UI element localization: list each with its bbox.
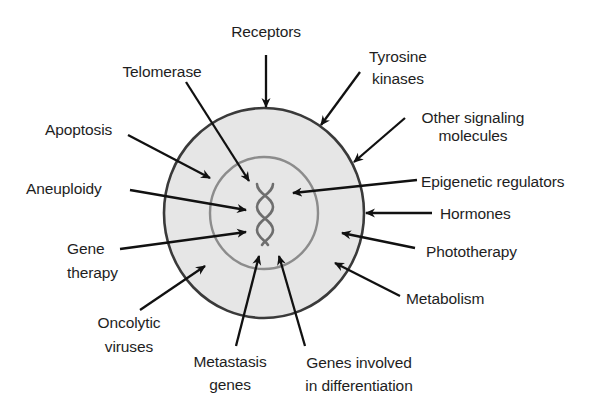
label-phototherapy: Phototherapy (426, 243, 517, 261)
label-oncolytic-line2: viruses (84, 338, 174, 356)
label-other-line2: molecules (408, 127, 538, 145)
label-metabolism-text: Metabolism (406, 290, 484, 307)
label-metastasis-line2: genes (180, 376, 280, 394)
label-gene-line1: Gene (67, 240, 118, 258)
label-epigenetic-text: Epigenetic regulators (421, 173, 565, 190)
label-tyrosine-kinases: Tyrosine kinases (358, 48, 438, 88)
label-other-line1: Other signaling (408, 109, 538, 127)
label-metastasis-genes: Metastasis genes (180, 353, 280, 394)
label-tyrosine-line1: Tyrosine (358, 48, 438, 66)
label-oncolytic-viruses: Oncolytic viruses (84, 314, 174, 356)
label-aneuploidy: Aneuploidy (26, 180, 102, 198)
label-telomerase-text: Telomerase (122, 63, 201, 80)
label-phototherapy-text: Phototherapy (426, 243, 517, 260)
label-epigenetic-regulators: Epigenetic regulators (421, 173, 565, 191)
label-hormones-text: Hormones (440, 205, 511, 222)
label-metabolism: Metabolism (406, 290, 484, 308)
label-telomerase: Telomerase (112, 63, 212, 81)
arrow-other-signaling-molecules (354, 118, 405, 162)
label-aneuploidy-text: Aneuploidy (26, 180, 102, 197)
label-genes-involved-in-differentiation: Genes involved in differentiation (292, 354, 426, 395)
arrow-metabolism (335, 263, 400, 296)
label-gene-therapy: Gene therapy (67, 240, 118, 282)
label-apoptosis: Apoptosis (45, 121, 112, 139)
label-apoptosis-text: Apoptosis (45, 121, 112, 138)
outer-cell-membrane (164, 108, 364, 318)
label-oncolytic-line1: Oncolytic (84, 314, 174, 332)
label-receptors: Receptors (222, 23, 310, 41)
label-diff-line1: Genes involved (292, 354, 426, 372)
label-diff-line2: in differentiation (292, 377, 426, 395)
label-metastasis-line1: Metastasis (180, 353, 280, 371)
label-tyrosine-line2: kinases (358, 70, 438, 88)
label-hormones: Hormones (440, 205, 511, 223)
label-gene-line2: therapy (67, 264, 118, 282)
label-receptors-text: Receptors (231, 23, 301, 40)
label-other-signaling-molecules: Other signaling molecules (408, 109, 538, 145)
arrow-tyrosine-kinases (321, 72, 360, 125)
